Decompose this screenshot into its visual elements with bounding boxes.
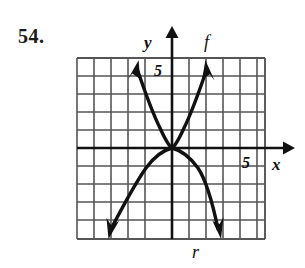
x-axis — [77, 142, 295, 155]
y-axis-label: y — [142, 33, 152, 52]
curve-f-label: f — [204, 32, 212, 52]
x-axis-arrow — [283, 142, 295, 155]
curve-r-label: r — [192, 242, 200, 262]
y-axis-arrow — [166, 26, 179, 38]
curve-r-left-arrow — [107, 218, 120, 239]
x-axis-tick-label-5: 5 — [242, 154, 250, 171]
figure-root: 54. — [0, 0, 305, 268]
coordinate-graph: y x 5 5 f r — [0, 0, 305, 268]
x-axis-label: x — [271, 155, 281, 174]
y-axis-tick-label-5: 5 — [154, 62, 162, 79]
